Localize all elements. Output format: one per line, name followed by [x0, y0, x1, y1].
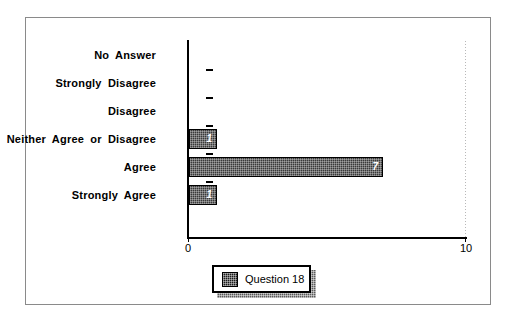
category-label-agree: Agree: [124, 161, 156, 173]
category-label-disagree: Disagree: [108, 105, 156, 117]
legend-entry-label: Question 18: [245, 273, 304, 285]
bar-strongly-agree[interactable]: 1: [189, 185, 217, 205]
bar-chart-figure: No Answer Strongly Disagree Disagree Nei…: [0, 0, 514, 322]
category-row: No Answer: [26, 41, 492, 69]
category-row: Neither Agree or Disagree 1: [26, 125, 492, 153]
bar-agree[interactable]: 7: [189, 157, 383, 177]
category-row: Strongly Disagree: [26, 69, 492, 97]
category-label-strongly-agree: Strongly Agree: [72, 189, 156, 201]
category-row: Strongly Agree 1: [26, 181, 492, 209]
bar-value-label: 1: [206, 134, 212, 144]
x-axis-line: [187, 237, 467, 239]
category-label-strongly-disagree: Strongly Disagree: [55, 77, 156, 89]
category-row: Disagree: [26, 97, 492, 125]
x-axis-label-10: 10: [460, 242, 472, 254]
question-18-swatch: [222, 272, 238, 287]
x-axis-label-0: 0: [185, 242, 191, 254]
bar-value-label: 1: [206, 190, 212, 200]
chart-frame: No Answer Strongly Disagree Disagree Nei…: [25, 17, 491, 305]
category-label-neither-agree-or-disagree: Neither Agree or Disagree: [7, 133, 156, 145]
bar-neither-agree-or-disagree[interactable]: 1: [189, 129, 217, 149]
bar-value-label: 7: [372, 162, 378, 172]
category-row: Agree 7: [26, 153, 492, 181]
category-label-no-answer: No Answer: [94, 49, 156, 61]
legend-box[interactable]: Question 18: [212, 265, 311, 293]
